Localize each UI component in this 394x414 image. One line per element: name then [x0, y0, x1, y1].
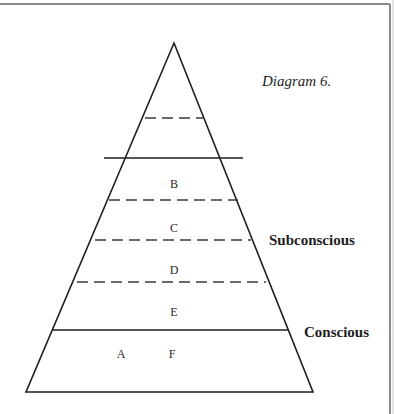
pyramid-outline — [26, 43, 313, 392]
diagram-page: B C D E A F Diagram 6. Subconscious Cons… — [0, 0, 394, 414]
level-label-a: A — [117, 347, 126, 361]
level-label-b: B — [170, 177, 178, 191]
conscious-label: Conscious — [304, 324, 369, 340]
pyramid-diagram: B C D E A F Diagram 6. Subconscious Cons… — [0, 0, 394, 414]
level-label-e: E — [170, 305, 177, 319]
level-label-f: F — [169, 347, 176, 361]
diagram-caption: Diagram 6. — [261, 73, 331, 89]
level-label-d: D — [170, 263, 179, 277]
subconscious-label: Subconscious — [269, 232, 355, 248]
level-label-c: C — [170, 221, 178, 235]
